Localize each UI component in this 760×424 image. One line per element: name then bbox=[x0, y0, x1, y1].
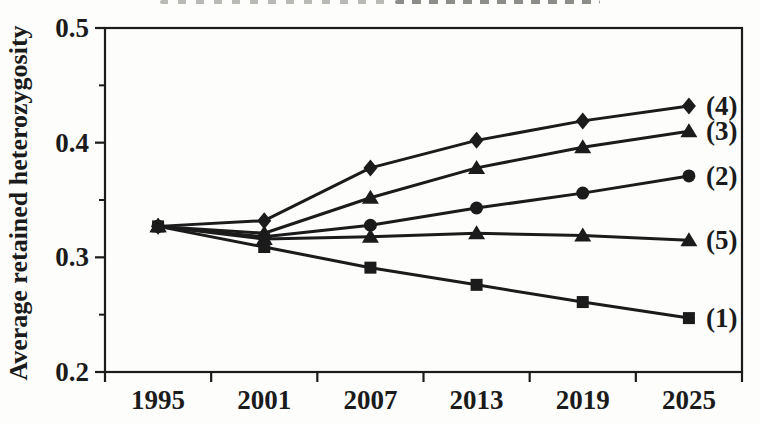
square-marker bbox=[683, 312, 695, 324]
y-tick-label: 0.5 bbox=[55, 13, 89, 43]
square-marker bbox=[471, 279, 483, 291]
y-tick-label: 0.3 bbox=[55, 242, 89, 272]
square-marker bbox=[152, 220, 164, 232]
series-line-1 bbox=[158, 226, 689, 318]
series-label: (5) bbox=[706, 225, 737, 255]
series-label: (1) bbox=[706, 303, 737, 333]
chart-svg: Average retained heterozygosity 0.50.40.… bbox=[0, 0, 760, 424]
figure: Average retained heterozygosity 0.50.40.… bbox=[0, 0, 760, 424]
circle-marker bbox=[470, 202, 483, 215]
series-line-4 bbox=[158, 106, 689, 226]
x-tick-label: 2025 bbox=[662, 385, 716, 415]
series-line-2 bbox=[158, 176, 689, 237]
y-tick-label: 0.4 bbox=[55, 128, 89, 158]
circle-marker bbox=[576, 187, 589, 200]
x-tick-label: 2007 bbox=[343, 385, 397, 415]
square-marker bbox=[364, 262, 376, 274]
x-tick-label: 1995 bbox=[131, 385, 185, 415]
square-marker bbox=[258, 241, 270, 253]
square-marker bbox=[577, 296, 589, 308]
triangle-marker bbox=[680, 123, 697, 137]
x-tick-label: 2001 bbox=[237, 385, 291, 415]
diamond-marker bbox=[682, 97, 696, 114]
y-tick-label: 0.2 bbox=[55, 357, 89, 387]
circle-marker bbox=[682, 169, 695, 182]
diamond-marker bbox=[470, 132, 484, 149]
y-axis-title: Average retained heterozygosity bbox=[4, 25, 33, 380]
series-label: (2) bbox=[706, 161, 737, 191]
x-tick-label: 2013 bbox=[450, 385, 504, 415]
series-label: (3) bbox=[706, 116, 737, 146]
x-tick-label: 2019 bbox=[556, 385, 610, 415]
diamond-marker bbox=[576, 112, 590, 129]
plot-frame bbox=[105, 28, 742, 372]
diamond-marker bbox=[363, 159, 377, 176]
